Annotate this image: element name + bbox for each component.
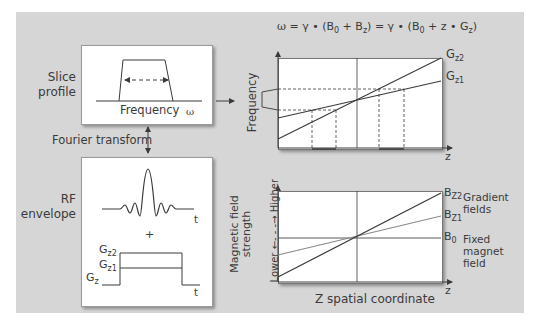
bz2-line — [278, 193, 441, 277]
gz2-line — [278, 58, 441, 139]
frequency-band-bracket — [262, 89, 278, 110]
gz1-line — [278, 81, 441, 118]
gradient-pulse — [102, 253, 200, 285]
rf-sinc-waveform — [102, 169, 194, 216]
diagram-drawings — [0, 0, 538, 327]
frequency-chart-lines — [262, 52, 452, 149]
field-chart-lines — [278, 186, 452, 282]
slice-profile-trapezoid — [96, 60, 202, 101]
